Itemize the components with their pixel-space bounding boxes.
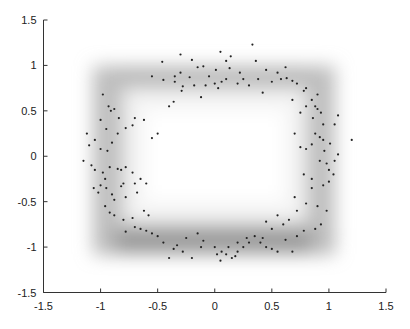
data-point <box>125 127 127 129</box>
x-tick-label: 1 <box>326 300 332 312</box>
data-point <box>215 69 217 71</box>
data-point <box>131 217 133 219</box>
data-point <box>134 226 136 228</box>
data-point <box>179 72 181 74</box>
data-point <box>334 123 336 125</box>
data-point <box>322 123 324 125</box>
data-point <box>109 211 111 213</box>
data-point <box>120 185 122 187</box>
data-point <box>225 253 227 255</box>
data-point <box>117 168 119 170</box>
x-tick-label: 0.5 <box>264 300 279 312</box>
data-point <box>110 110 112 112</box>
data-point <box>197 66 199 68</box>
data-point <box>305 87 307 89</box>
data-point <box>181 90 183 92</box>
data-point <box>254 235 256 237</box>
data-point <box>284 66 286 68</box>
data-point <box>157 132 159 134</box>
data-point <box>326 210 328 212</box>
data-point <box>107 105 109 107</box>
data-point <box>322 184 324 186</box>
data-point <box>316 205 318 207</box>
scatter-plot: -1.5-1-0.500.511.5 1.510.50-0.5-1-1.5 <box>0 0 410 329</box>
data-point <box>305 202 307 204</box>
data-point <box>282 223 284 225</box>
data-point <box>311 178 313 180</box>
data-point <box>145 182 147 184</box>
data-point <box>191 257 193 259</box>
data-point <box>93 187 95 189</box>
data-point <box>316 108 318 110</box>
data-point <box>305 148 307 150</box>
data-point <box>208 75 210 77</box>
data-point <box>271 81 273 83</box>
data-point <box>122 182 124 184</box>
data-point <box>265 221 267 223</box>
data-point <box>323 150 325 152</box>
data-point <box>147 214 149 216</box>
data-point <box>102 93 104 95</box>
data-point <box>276 251 278 253</box>
data-point <box>113 199 115 201</box>
data-point <box>131 124 133 126</box>
data-point <box>288 219 290 221</box>
data-point <box>136 191 138 193</box>
x-tick-label: -1.5 <box>34 300 53 312</box>
data-point <box>185 237 187 239</box>
data-point <box>182 251 184 253</box>
data-point <box>94 139 96 141</box>
data-point <box>202 240 204 242</box>
data-point <box>230 55 232 57</box>
data-point <box>299 146 301 148</box>
data-point <box>311 143 313 145</box>
data-point <box>228 67 230 69</box>
data-point <box>319 136 321 138</box>
data-point <box>314 105 316 107</box>
data-point <box>113 214 115 216</box>
data-point <box>182 85 184 87</box>
data-point <box>109 166 111 168</box>
x-tick-label: -0.5 <box>148 300 167 312</box>
data-point <box>125 166 127 168</box>
data-point <box>157 235 159 237</box>
y-tick-label: 0.5 <box>21 105 36 117</box>
data-point <box>265 69 267 71</box>
data-point <box>174 81 176 83</box>
data-point <box>262 92 264 94</box>
data-point <box>151 137 153 139</box>
data-point <box>162 79 164 81</box>
data-point <box>334 160 336 162</box>
data-point <box>117 132 119 134</box>
data-point <box>113 108 115 110</box>
data-point <box>214 82 216 84</box>
data-point <box>231 257 233 259</box>
data-point <box>216 253 218 255</box>
data-point <box>145 230 147 232</box>
data-point <box>265 246 267 248</box>
data-point <box>99 184 101 186</box>
data-point <box>221 81 223 83</box>
data-point <box>351 139 353 141</box>
data-point <box>322 139 324 141</box>
data-point <box>111 142 113 144</box>
data-point <box>271 248 273 250</box>
data-point <box>248 241 250 243</box>
data-point <box>139 178 141 180</box>
x-tick-label: 1.5 <box>378 300 393 312</box>
data-point <box>134 117 136 119</box>
data-point <box>303 90 305 92</box>
data-point <box>312 117 314 119</box>
data-point <box>161 61 163 63</box>
data-point <box>106 150 108 152</box>
data-point <box>328 181 330 183</box>
data-point <box>234 255 236 257</box>
data-point <box>219 260 221 262</box>
data-point <box>131 172 133 174</box>
data-point <box>299 112 301 114</box>
data-point <box>151 75 153 77</box>
data-point <box>99 119 101 121</box>
data-point <box>105 128 107 130</box>
data-point <box>262 237 264 239</box>
data-point <box>168 257 170 259</box>
